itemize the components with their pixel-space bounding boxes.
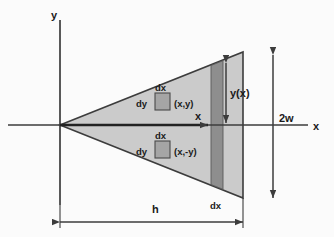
lower-dy-label: dy (136, 146, 148, 157)
lower-dx-label: dx (155, 130, 167, 141)
two-w-label: 2w (279, 112, 294, 124)
x-local-label: x (195, 110, 202, 122)
fin-cross-section-diagram: y x x y(x) 2w h dx dx dy (x,y) dx dy (x,… (0, 0, 334, 237)
upper-dx-label: dx (155, 82, 167, 93)
diagram-canvas: y x x y(x) 2w h dx dx dy (x,y) dx dy (x,… (0, 0, 334, 237)
lower-element-square (155, 141, 170, 158)
lower-point-label: (x,-y) (174, 146, 197, 157)
x-axis-label: x (313, 120, 320, 132)
y-axis-label: y (51, 9, 58, 21)
dx-strip-label: dx (210, 200, 222, 211)
upper-dy-label: dy (136, 98, 148, 109)
upper-element-square (155, 93, 170, 110)
y-of-x-label: y(x) (230, 87, 250, 99)
upper-point-label: (x,y) (174, 98, 194, 109)
h-label: h (152, 203, 159, 215)
